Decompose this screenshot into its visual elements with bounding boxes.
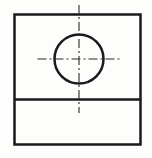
drawing-viewport: Orthographic part view with centered thr… [0, 0, 152, 158]
technical-drawing-canvas: Orthographic part view with centered thr… [0, 0, 152, 158]
